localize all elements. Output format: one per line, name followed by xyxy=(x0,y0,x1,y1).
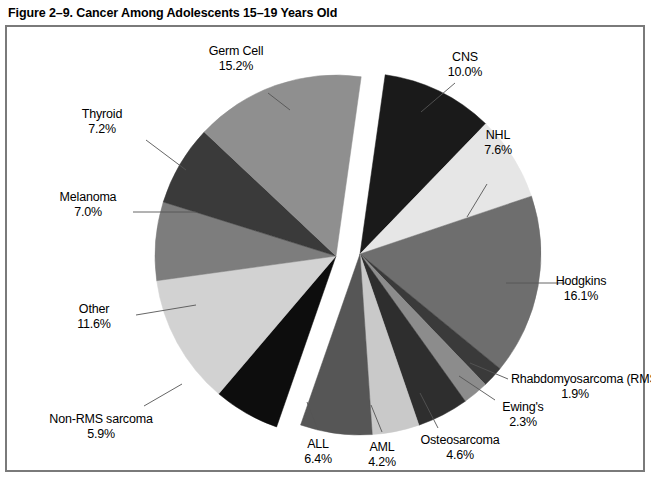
slice-label-rhabdomyosarcoma: Rhabdomyosarcoma (RMS) 1.9% xyxy=(511,372,651,401)
slice-label-all-name: ALL xyxy=(284,437,352,452)
slice-label-melanoma-pct: 7.0% xyxy=(46,205,130,220)
leader-thyroid xyxy=(146,140,186,170)
slice-label-cns-pct: 10.0% xyxy=(432,65,498,80)
slice-label-aml: AML 4.2% xyxy=(348,440,416,469)
slice-label-nhl: NHL 7.6% xyxy=(468,128,528,157)
slice-label-non-rms-sarcoma-pct: 5.9% xyxy=(36,427,166,442)
slice-label-rhabdomyosarcoma-name: Rhabdomyosarcoma (RMS) xyxy=(511,372,651,387)
slice-label-thyroid-name: Thyroid xyxy=(62,107,142,122)
slice-label-ewings: Ewing's 2.3% xyxy=(486,400,560,429)
slice-label-nhl-pct: 7.6% xyxy=(468,143,528,158)
leader-non-rms xyxy=(144,384,182,406)
slice-label-other-pct: 11.6% xyxy=(56,317,132,332)
slice-label-thyroid: Thyroid 7.2% xyxy=(62,107,142,136)
slice-label-all-pct: 6.4% xyxy=(284,452,352,467)
slice-label-other: Other 11.6% xyxy=(56,302,132,331)
slice-label-nhl-name: NHL xyxy=(468,128,528,143)
slice-label-melanoma: Melanoma 7.0% xyxy=(46,190,130,219)
slice-label-all: ALL 6.4% xyxy=(284,437,352,466)
slice-label-rhabdomyosarcoma-pct: 1.9% xyxy=(511,387,639,402)
slice-label-aml-pct: 4.2% xyxy=(348,455,416,470)
slice-label-germ-cell-name: Germ Cell xyxy=(176,44,296,59)
slice-label-other-name: Other xyxy=(56,302,132,317)
slice-label-germ-cell: Germ Cell 15.2% xyxy=(176,44,296,73)
slice-label-osteosarcoma: Osteosarcoma 4.6% xyxy=(408,433,512,462)
slice-label-hodgkins-pct: 16.1% xyxy=(538,289,624,304)
slice-label-melanoma-name: Melanoma xyxy=(46,190,130,205)
slice-label-osteosarcoma-name: Osteosarcoma xyxy=(408,433,512,448)
slice-label-ewings-pct: 2.3% xyxy=(486,415,560,430)
figure-page: Figure 2–9. Cancer Among Adolescents 15–… xyxy=(0,0,651,495)
slice-label-hodgkins: Hodgkins 16.1% xyxy=(538,274,624,303)
slice-label-ewings-name: Ewing's xyxy=(486,400,560,415)
slice-label-aml-name: AML xyxy=(348,440,416,455)
slice-label-osteosarcoma-pct: 4.6% xyxy=(408,448,512,463)
slice-label-cns-name: CNS xyxy=(432,50,498,65)
slice-label-thyroid-pct: 7.2% xyxy=(62,122,142,137)
slice-label-germ-cell-pct: 15.2% xyxy=(176,59,296,74)
slice-label-hodgkins-name: Hodgkins xyxy=(538,274,624,289)
slice-label-non-rms-sarcoma: Non-RMS sarcoma 5.9% xyxy=(36,412,166,441)
slice-label-cns: CNS 10.0% xyxy=(432,50,498,79)
slice-label-non-rms-sarcoma-name: Non-RMS sarcoma xyxy=(36,412,166,427)
